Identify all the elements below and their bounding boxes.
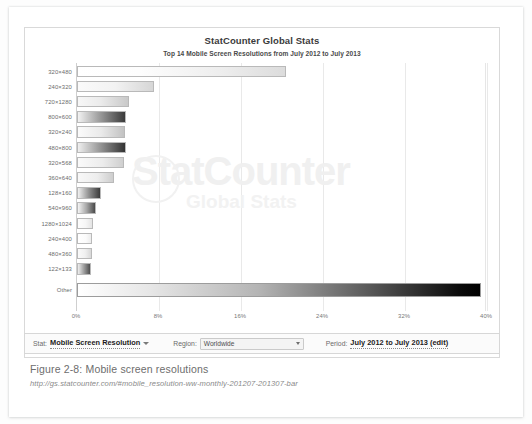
bar[interactable] bbox=[77, 81, 154, 93]
bar[interactable] bbox=[77, 126, 125, 138]
bar-row: 1280×1024 bbox=[77, 216, 485, 231]
bar[interactable] bbox=[77, 248, 92, 260]
chevron-down-icon[interactable] bbox=[143, 342, 149, 345]
stat-control[interactable]: Stat: Mobile Screen Resolution bbox=[33, 338, 149, 349]
x-tick-label: 16% bbox=[234, 313, 246, 319]
category-label: 128×160 bbox=[48, 190, 72, 196]
period-value[interactable]: July 2012 to July 2013 (edit) bbox=[350, 338, 448, 349]
bar-row: 360×640 bbox=[77, 170, 485, 185]
category-label: 320×480 bbox=[48, 69, 72, 75]
x-axis-ticks: 0%8%16%24%32%40% bbox=[76, 313, 486, 327]
bar[interactable] bbox=[77, 66, 286, 78]
bar-row: 720×1280 bbox=[77, 94, 485, 109]
chart-control-bar: Stat: Mobile Screen Resolution Region: W… bbox=[24, 333, 500, 354]
bar[interactable] bbox=[77, 111, 126, 123]
bar-row: 800×600 bbox=[77, 110, 485, 125]
region-select[interactable]: Worldwide bbox=[200, 338, 304, 350]
bar[interactable] bbox=[77, 157, 124, 169]
category-label: 720×1280 bbox=[45, 99, 72, 105]
category-label: 480×800 bbox=[48, 145, 72, 151]
category-label: 320×568 bbox=[48, 160, 72, 166]
period-label: Period: bbox=[326, 340, 348, 347]
bar-row: 240×400 bbox=[77, 231, 485, 246]
region-label: Region: bbox=[173, 340, 196, 347]
chevron-down-icon[interactable] bbox=[296, 342, 300, 345]
bar[interactable] bbox=[77, 263, 91, 275]
x-tick-label: 0% bbox=[72, 313, 81, 319]
bar-row: 320×480 bbox=[77, 64, 485, 79]
category-label: 320×240 bbox=[48, 129, 72, 135]
x-tick-label: 8% bbox=[154, 313, 163, 319]
bar[interactable] bbox=[77, 172, 114, 184]
bar[interactable] bbox=[77, 202, 96, 214]
category-label: 1280×1024 bbox=[41, 221, 72, 227]
gridline bbox=[487, 63, 488, 311]
bar-row: 480×800 bbox=[77, 140, 485, 155]
bar-row: 320×240 bbox=[77, 125, 485, 140]
bar[interactable] bbox=[77, 283, 481, 297]
period-control[interactable]: Period: July 2012 to July 2013 (edit) bbox=[326, 338, 448, 349]
category-label: 540×960 bbox=[48, 205, 72, 211]
chart-subtitle: Top 14 Mobile Screen Resolutions from Ju… bbox=[25, 50, 499, 57]
stat-value[interactable]: Mobile Screen Resolution bbox=[50, 338, 140, 349]
bar[interactable] bbox=[77, 218, 93, 230]
category-label: 480×360 bbox=[48, 251, 72, 257]
stat-label: Stat: bbox=[33, 340, 47, 347]
category-label: 800×600 bbox=[48, 114, 72, 120]
bar-row: Other bbox=[77, 283, 485, 298]
bar-row: 480×360 bbox=[77, 246, 485, 261]
category-label: 122×133 bbox=[48, 266, 72, 272]
category-label: Other bbox=[57, 287, 72, 293]
figure-caption: Figure 2-8: Mobile screen resolutions bbox=[30, 363, 500, 375]
bar-row: 540×960 bbox=[77, 201, 485, 216]
bar[interactable] bbox=[77, 187, 101, 199]
chart-title: StatCounter Global Stats bbox=[25, 35, 499, 46]
bar-row: 320×568 bbox=[77, 155, 485, 170]
bar[interactable] bbox=[77, 233, 92, 245]
bar[interactable] bbox=[77, 142, 126, 154]
bar-row: 240×320 bbox=[77, 79, 485, 94]
bar-row: 128×160 bbox=[77, 186, 485, 201]
plot-area: StatCounter Global Stats 320×480240×3207… bbox=[76, 63, 486, 311]
region-control[interactable]: Region: Worldwide bbox=[173, 338, 303, 350]
figure-source-url: http://gs.statcounter.com/#mobile_resolu… bbox=[30, 379, 500, 388]
category-label: 360×640 bbox=[48, 175, 72, 181]
category-label: 240×400 bbox=[48, 236, 72, 242]
category-label: 240×320 bbox=[48, 84, 72, 90]
figure-caption-block: Figure 2-8: Mobile screen resolutions ht… bbox=[30, 363, 500, 388]
x-tick-label: 24% bbox=[316, 313, 328, 319]
bar[interactable] bbox=[77, 96, 129, 108]
bar-row: 122×133 bbox=[77, 262, 485, 277]
x-tick-label: 32% bbox=[398, 313, 410, 319]
figure-page: StatCounter Global Stats Top 14 Mobile S… bbox=[0, 0, 532, 424]
statcounter-chart-panel: StatCounter Global Stats Top 14 Mobile S… bbox=[24, 27, 500, 358]
region-value: Worldwide bbox=[204, 340, 235, 347]
x-tick-label: 40% bbox=[480, 313, 492, 319]
